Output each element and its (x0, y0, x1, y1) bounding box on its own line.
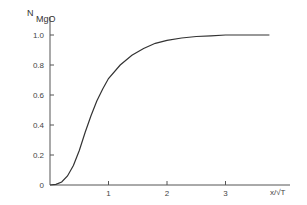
y-tick-label: 0.4 (33, 121, 45, 130)
x-tick-label: 1 (106, 189, 111, 198)
y-ticks: 00.20.40.60.81.0 (33, 31, 54, 190)
line-chart: 00.20.40.60.81.0 123 (0, 0, 307, 205)
y-tick-label: 0.2 (33, 151, 45, 160)
data-line (50, 35, 269, 185)
x-tick-label: 3 (223, 189, 228, 198)
x-ticks: 123 (106, 181, 228, 198)
y-axis-label-subscript: MgO (36, 14, 56, 24)
y-axis-label: N (27, 8, 34, 18)
x-axis-label: x/√T (270, 188, 286, 197)
y-tick-label: 0 (40, 181, 45, 190)
y-tick-label: 0.8 (33, 61, 45, 70)
x-tick-label: 2 (165, 189, 170, 198)
y-tick-label: 0.6 (33, 91, 45, 100)
y-tick-label: 1.0 (33, 31, 45, 40)
